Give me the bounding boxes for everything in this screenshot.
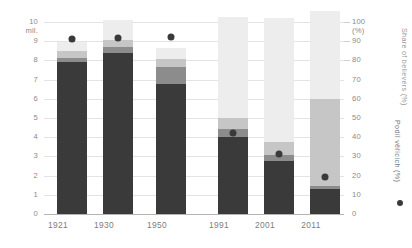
y-tick-right-100: 100 <box>352 18 365 26</box>
bar-2001[interactable] <box>264 18 294 214</box>
bar-segment-mid-dark-1921 <box>57 58 87 63</box>
y-tick-right-10: 10 <box>352 191 361 199</box>
gridline-8 <box>44 60 344 61</box>
point-share-1991 <box>230 129 237 136</box>
x-tick-2011: 2011 <box>288 220 334 230</box>
gridline-2 <box>44 176 344 177</box>
point-share-1950 <box>168 33 175 40</box>
bar-segment-believers-2011 <box>310 189 340 214</box>
gridline-3 <box>44 156 344 157</box>
bar-segment-believers-1930 <box>103 53 133 214</box>
point-share-2011 <box>322 173 329 180</box>
y-axis-left-unit: mil. <box>0 27 38 35</box>
bar-segment-top-1950 <box>156 48 186 59</box>
y-tick-dash-90 <box>344 41 350 42</box>
chart-root: 10 mil. 9 8 7 6 5 4 3 2 1 0 100 (%) 90 8… <box>0 0 412 248</box>
x-tick-1991: 1991 <box>196 220 242 230</box>
point-share-1930 <box>115 34 122 41</box>
gridline-10 <box>44 22 344 23</box>
y-tick-left-3: 3 <box>0 152 38 160</box>
y-tick-left-9: 9 <box>0 37 38 45</box>
y-tick-left-5: 5 <box>0 114 38 122</box>
bar-segment-believers-1991 <box>218 137 248 214</box>
bar-1991[interactable] <box>218 17 248 214</box>
bar-segment-top-1991 <box>218 17 248 118</box>
y-tick-left-0: 0 <box>0 210 38 218</box>
bar-1930[interactable] <box>103 20 133 214</box>
y-tick-right-40: 40 <box>352 133 361 141</box>
bar-segment-mid-light-1950 <box>156 59 186 68</box>
gridline-9 <box>44 41 344 42</box>
gridline-5 <box>44 118 344 119</box>
y-tick-left-1: 1 <box>0 191 38 199</box>
y-tick-right-0: 0 <box>352 210 356 218</box>
y-tick-right-70: 70 <box>352 76 361 84</box>
bar-segment-top-2001 <box>264 18 294 142</box>
point-share-1921 <box>69 35 76 42</box>
gridline-4 <box>44 137 344 138</box>
legend-label-en: Share of believers (%) <box>400 28 409 106</box>
y-axis-right-unit: (%) <box>352 27 364 35</box>
legend-label-cs: Podíl věřících (%) <box>393 120 402 182</box>
bar-2011[interactable] <box>310 11 340 214</box>
y-tick-right-50: 50 <box>352 114 361 122</box>
y-tick-left-6: 6 <box>0 95 38 103</box>
bar-1921[interactable] <box>57 42 87 214</box>
y-axis-left: 10 mil. 9 8 7 6 5 4 3 2 1 0 <box>0 22 38 214</box>
bar-segment-top-2011 <box>310 11 340 99</box>
gridline-1 <box>44 195 344 196</box>
bar-segment-believers-1950 <box>156 84 186 214</box>
y-tick-left-10: 10 <box>0 18 38 26</box>
bar-segment-believers-2001 <box>264 161 294 214</box>
y-tick-left-4: 4 <box>0 133 38 141</box>
bar-segment-mid-dark-1930 <box>103 47 133 53</box>
y-tick-left-7: 7 <box>0 76 38 84</box>
y-axis-right: 100 (%) 90 80 70 60 50 40 30 20 10 0 <box>352 22 382 214</box>
y-tick-right-60: 60 <box>352 95 361 103</box>
legend-marker-dot <box>397 200 403 206</box>
y-tick-right-20: 20 <box>352 172 361 180</box>
bar-segment-believers-1921 <box>57 62 87 214</box>
legend: Share of believers (%) Podíl věřících (%… <box>384 24 410 224</box>
bar-segment-mid-light-1921 <box>57 51 87 58</box>
bar-segment-mid-light-1930 <box>103 40 133 47</box>
plot-area <box>44 22 344 214</box>
gridline-0 <box>44 214 344 215</box>
gridline-7 <box>44 80 344 81</box>
bar-segment-mid-dark-2011 <box>310 186 340 190</box>
x-tick-1921: 1921 <box>35 220 81 230</box>
y-tick-right-90: 90 <box>352 37 361 45</box>
x-tick-1930: 1930 <box>81 220 127 230</box>
y-tick-left-2: 2 <box>0 172 38 180</box>
y-tick-left-8: 8 <box>0 56 38 64</box>
y-tick-right-80: 80 <box>352 56 361 64</box>
bar-segment-mid-dark-1950 <box>156 67 186 84</box>
y-tick-right-30: 30 <box>352 152 361 160</box>
gridline-6 <box>44 99 344 100</box>
x-tick-1950: 1950 <box>134 220 180 230</box>
bar-segment-top-1921 <box>57 42 87 51</box>
x-tick-2001: 2001 <box>242 220 288 230</box>
point-share-2001 <box>276 150 283 157</box>
y-tick-dash-80 <box>344 60 350 61</box>
bar-1950[interactable] <box>156 48 186 214</box>
y-tick-dash-100 <box>344 22 350 23</box>
bar-segment-mid-light-1991 <box>218 118 248 129</box>
